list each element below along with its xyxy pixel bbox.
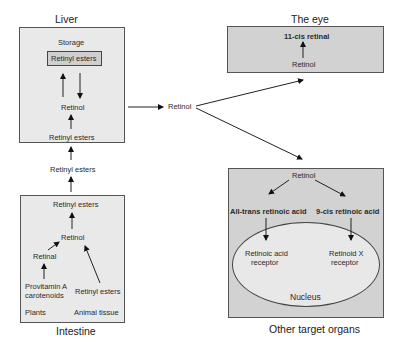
other-organs-title: Other target organs — [269, 323, 360, 335]
intestine-plants: Plants — [25, 308, 46, 317]
intestine-retinyl-esters-bottom: Retinyl esters — [75, 287, 120, 296]
9-cis-retinoic-acid: 9-cis retinoic acid — [316, 207, 379, 216]
circulating-retinol: Retinol — [168, 102, 191, 111]
intestine-retinyl-esters-top: Retinyl esters — [53, 200, 98, 209]
intestine-title: Intestine — [56, 325, 96, 337]
eye-title: The eye — [291, 13, 329, 25]
intestine-animal-tissue: Animal tissue — [74, 308, 119, 317]
nucleus-label: Nucleus — [290, 292, 321, 302]
all-trans-retinoic-acid: All-trans retinoic acid — [230, 207, 307, 216]
eye-11-cis-retinal: 11-cis retinal — [284, 32, 329, 41]
eye-retinol: Retinol — [292, 60, 315, 69]
liver-storage-retinyl-esters: Retinyl esters — [51, 54, 96, 63]
intestine-retinal: Retinal — [33, 252, 56, 261]
liver-retinyl-esters: Retinyl esters — [49, 133, 94, 142]
organs-retinol: Retinol — [292, 171, 315, 180]
retinoid-x-receptor-line1: Retinoid X — [329, 249, 364, 258]
intestine-provitamin-line1: Provitamin A — [25, 282, 67, 291]
liver-retinol: Retinol — [61, 103, 84, 112]
liver-storage-label: Storage — [58, 38, 84, 47]
retinoic-acid-receptor-line1: Retinoic acid — [245, 249, 288, 258]
transport-retinyl-esters: Retinyl esters — [50, 165, 95, 174]
retinoic-acid-receptor-line2: receptor — [251, 258, 279, 267]
retinoid-x-receptor-line2: receptor — [331, 258, 359, 267]
liver-title: Liver — [55, 13, 78, 25]
intestine-provitamin-line2: carotenoids — [25, 291, 64, 300]
arrow-retinol-to-eye — [196, 80, 303, 106]
arrow-retinol-to-organs — [196, 108, 302, 159]
intestine-retinol: Retinol — [61, 233, 84, 242]
